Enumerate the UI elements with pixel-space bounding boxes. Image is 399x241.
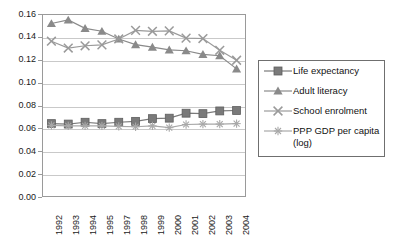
data-point-square xyxy=(274,67,282,75)
series-school-enrolment xyxy=(47,26,241,65)
data-point-square xyxy=(233,107,241,115)
gridline xyxy=(43,129,245,130)
y-tick-label: 0.02 xyxy=(0,170,36,179)
data-point-square xyxy=(216,107,224,115)
data-point-triangle xyxy=(97,27,106,35)
legend-label: PPP GDP per capita xyxy=(293,121,379,136)
x-axis: 1992199319941995199719981999200020012002… xyxy=(42,197,246,241)
x-tick-label: 2001 xyxy=(191,215,200,235)
series-line xyxy=(51,110,236,124)
x-tick-label: 2002 xyxy=(208,215,217,235)
data-point-square xyxy=(47,120,55,128)
series-life-expectancy xyxy=(47,107,240,128)
x-tick-label: 2000 xyxy=(174,215,183,235)
x-tick-label: 1992 xyxy=(55,215,64,235)
plot-area xyxy=(42,14,246,197)
y-tick-label: 0.08 xyxy=(0,101,36,110)
data-point-triangle xyxy=(232,64,241,72)
y-tick-label: 0.12 xyxy=(0,55,36,64)
y-tick-label: 0.10 xyxy=(0,78,36,87)
gridline xyxy=(43,107,245,108)
series-line xyxy=(51,124,236,128)
series-line xyxy=(51,30,236,60)
x-tick-label: 2003 xyxy=(225,215,234,235)
gridline xyxy=(43,84,245,85)
data-point-square xyxy=(182,109,190,117)
legend-label: Life expectancy xyxy=(293,61,359,76)
data-point-x xyxy=(215,46,224,55)
x-tick-label: 1995 xyxy=(106,215,115,235)
legend-item-school-enrolment[interactable]: School enrolment xyxy=(259,101,384,121)
data-point-square xyxy=(115,118,123,126)
y-tick-label: 0.04 xyxy=(0,147,36,156)
x-tick-label: 1993 xyxy=(72,215,81,235)
data-point-x xyxy=(148,27,157,36)
data-point-square xyxy=(199,110,207,118)
gridline xyxy=(43,152,245,153)
data-point-asterisk xyxy=(199,120,207,128)
data-point-triangle xyxy=(215,51,224,59)
chart-screenshot: 0.000.020.040.060.080.100.120.140.16 199… xyxy=(0,0,399,241)
data-point-triangle xyxy=(64,16,73,24)
data-point-x xyxy=(64,44,73,53)
data-point-triangle xyxy=(131,40,140,48)
data-point-x xyxy=(114,35,123,44)
legend-item-life-expectancy[interactable]: Life expectancy xyxy=(259,61,384,81)
chart-legend: Life expectancyAdult literacySchool enro… xyxy=(258,60,385,157)
x-tick-label: 2004 xyxy=(242,215,251,235)
x-tick-label: 1998 xyxy=(140,215,149,235)
series-adult-literacy xyxy=(47,16,241,73)
data-point-asterisk xyxy=(216,120,224,128)
legend-label: Adult literacy xyxy=(293,81,347,96)
data-point-x xyxy=(131,26,140,35)
data-point-triangle xyxy=(47,19,56,27)
data-point-square xyxy=(64,120,72,128)
x-tick-label: 1994 xyxy=(89,215,98,235)
gridline xyxy=(43,61,245,62)
y-tick-label: 0.06 xyxy=(0,124,36,133)
data-point-triangle xyxy=(198,50,207,58)
data-point-square xyxy=(98,120,106,128)
data-point-asterisk xyxy=(165,124,173,132)
legend-marker-x-icon xyxy=(263,101,293,121)
data-point-triangle xyxy=(182,46,191,54)
data-point-square xyxy=(148,115,156,123)
legend-item-adult-literacy[interactable]: Adult literacy xyxy=(259,81,384,101)
series-layer xyxy=(43,15,245,196)
data-point-asterisk xyxy=(182,120,190,128)
legend-marker-square-icon xyxy=(263,61,293,81)
gridline xyxy=(43,38,245,39)
legend-item-ppp-gdp-per-capita[interactable]: PPP GDP per capita xyxy=(259,121,384,141)
gridline xyxy=(43,175,245,176)
legend-marker-triangle-icon xyxy=(263,81,293,101)
data-point-asterisk xyxy=(47,121,55,129)
data-point-square xyxy=(165,114,173,122)
data-point-square xyxy=(81,118,89,126)
data-point-x xyxy=(98,41,107,50)
data-point-x xyxy=(81,41,90,50)
y-tick-label: 0.00 xyxy=(0,193,36,202)
data-point-triangle xyxy=(81,24,90,32)
data-point-triangle xyxy=(165,45,174,53)
data-point-square xyxy=(132,117,140,125)
x-tick-label: 1999 xyxy=(157,215,166,235)
legend-label: School enrolment xyxy=(293,101,367,116)
x-tick-label: 1997 xyxy=(123,215,132,235)
data-point-triangle xyxy=(148,43,157,51)
data-point-asterisk xyxy=(274,127,282,135)
data-point-x xyxy=(165,26,174,35)
legend-marker-asterisk-icon xyxy=(263,121,293,141)
y-axis: 0.000.020.040.060.080.100.120.140.16 xyxy=(0,0,40,197)
data-point-asterisk xyxy=(232,119,240,127)
y-tick-label: 0.16 xyxy=(0,10,36,19)
y-tick-label: 0.14 xyxy=(0,32,36,41)
